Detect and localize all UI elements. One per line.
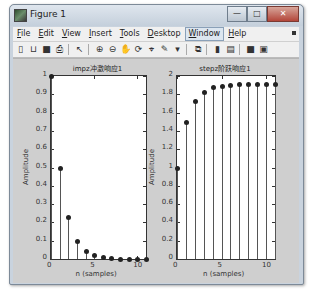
figure-window: Figure 1 — □ ✕ FileEditViewInsertToolsDe…: [9, 4, 304, 285]
stem-marker[interactable]: [175, 166, 180, 171]
stem-marker[interactable]: [118, 257, 123, 262]
menu-help[interactable]: Help: [224, 28, 250, 40]
stem-marker[interactable]: [202, 90, 207, 95]
hide-plot-tools-icon[interactable]: ■: [245, 44, 256, 55]
print-icon[interactable]: ⎙: [54, 44, 65, 55]
y-tick-right: [143, 76, 146, 77]
y-tick-label: 1.6: [162, 107, 173, 115]
menu-label: esktop: [154, 29, 181, 38]
y-tick-right: [143, 168, 146, 169]
menu-file[interactable]: File: [13, 28, 34, 40]
stem-marker[interactable]: [273, 82, 278, 87]
y-tick-label: 1: [43, 70, 47, 78]
open-file-icon[interactable]: ⊔: [28, 44, 39, 55]
stem-marker[interactable]: [237, 82, 242, 87]
pan-icon[interactable]: ✋: [120, 44, 131, 55]
stem-line: [275, 84, 276, 259]
y-tick-label: 0.4: [162, 216, 173, 224]
y-axis-label: Amplitude: [22, 149, 30, 185]
y-tick: [177, 131, 180, 132]
data-cursor-icon[interactable]: ⌖: [146, 44, 157, 55]
stem-marker[interactable]: [75, 239, 80, 244]
stem-line: [51, 76, 52, 259]
title-bar[interactable]: Figure 1 — □ ✕: [10, 5, 303, 26]
y-tick-right: [143, 186, 146, 187]
x-tick-label: 0: [47, 261, 51, 269]
menu-label: ools: [123, 29, 139, 38]
stem-line: [239, 84, 240, 259]
y-tick-label: 0.6: [36, 143, 47, 151]
toolbar-separator: [239, 44, 240, 55]
menu-tools[interactable]: Tools: [116, 28, 144, 40]
toolbar-separator: [68, 44, 69, 55]
y-tick: [51, 259, 54, 260]
menu-edit[interactable]: Edit: [34, 28, 58, 40]
stem-marker[interactable]: [109, 256, 114, 261]
axes-1[interactable]: [50, 75, 147, 260]
y-tick-label: 0.5: [36, 162, 47, 170]
zoom-in-icon[interactable]: ⊕: [94, 44, 105, 55]
menu-label: elp: [234, 29, 246, 38]
y-tick-right: [143, 149, 146, 150]
x-tick-top: [94, 76, 95, 79]
rotate-3d-icon[interactable]: ⟳: [133, 44, 144, 55]
stem-marker[interactable]: [184, 120, 189, 125]
y-tick-right: [143, 131, 146, 132]
y-tick-label: 0.2: [162, 235, 173, 243]
stem-marker[interactable]: [66, 215, 71, 220]
stem-marker[interactable]: [264, 82, 269, 87]
stem-line: [257, 84, 258, 259]
minimize-button[interactable]: —: [227, 6, 247, 22]
y-tick-right: [272, 259, 275, 260]
brush-icon[interactable]: ✎: [159, 44, 170, 55]
stem-line: [68, 217, 69, 259]
stem-line: [222, 86, 223, 259]
colorbar-icon[interactable]: ▮: [212, 44, 223, 55]
show-plot-tools-icon[interactable]: ▣: [258, 44, 269, 55]
y-tick-label: 1.2: [162, 143, 173, 151]
zoom-out-icon[interactable]: ⊖: [107, 44, 118, 55]
stem-marker[interactable]: [127, 257, 132, 262]
stem-line: [248, 84, 249, 259]
new-figure-icon[interactable]: ▯: [15, 44, 26, 55]
menu-view[interactable]: View: [58, 28, 85, 40]
y-tick-label: 0.8: [162, 180, 173, 188]
x-tick-top: [266, 76, 267, 79]
stem-marker[interactable]: [144, 257, 149, 262]
stem-marker[interactable]: [84, 249, 89, 254]
x-tick-label: 0: [173, 261, 177, 269]
legend-icon[interactable]: ▤: [225, 44, 236, 55]
stem-marker[interactable]: [58, 166, 63, 171]
toolbar-separator: [88, 44, 89, 55]
dock-pin-icon[interactable]: [292, 31, 296, 35]
menu-insert[interactable]: Insert: [85, 28, 116, 40]
y-tick-label: 0.8: [36, 107, 47, 115]
stem-marker[interactable]: [220, 84, 225, 89]
pointer-icon[interactable]: ↖: [74, 44, 85, 55]
brush-dropdown-icon[interactable]: ▾: [172, 44, 183, 55]
close-button[interactable]: ✕: [267, 6, 299, 22]
stem-marker[interactable]: [49, 74, 54, 79]
menu-window[interactable]: Window: [185, 27, 225, 41]
menu-desktop[interactable]: Desktop: [144, 28, 185, 40]
stem-line: [266, 84, 267, 259]
window-controls: — □ ✕: [227, 6, 299, 21]
stem-marker[interactable]: [193, 99, 198, 104]
axes-2[interactable]: [176, 75, 276, 260]
stem-line: [213, 87, 214, 259]
x-tick-top: [137, 76, 138, 79]
stem-marker[interactable]: [246, 82, 251, 87]
stem-marker[interactable]: [228, 83, 233, 88]
stem-line: [177, 168, 178, 260]
figure-canvas: impz冲激响应100.10.20.30.40.50.60.70.80.9105…: [13, 58, 299, 283]
stem-marker[interactable]: [255, 82, 260, 87]
menu-bar: FileEditViewInsertToolsDesktopWindowHelp: [13, 27, 299, 42]
save-icon[interactable]: ■: [41, 44, 52, 55]
maximize-button[interactable]: □: [247, 6, 267, 22]
stem-marker[interactable]: [211, 85, 216, 90]
stem-marker[interactable]: [101, 255, 106, 260]
x-tick-label: 10: [133, 261, 142, 269]
link-plot-icon[interactable]: ⧉: [192, 44, 203, 55]
y-tick-label: 0.7: [36, 125, 47, 133]
stem-marker[interactable]: [92, 253, 97, 258]
